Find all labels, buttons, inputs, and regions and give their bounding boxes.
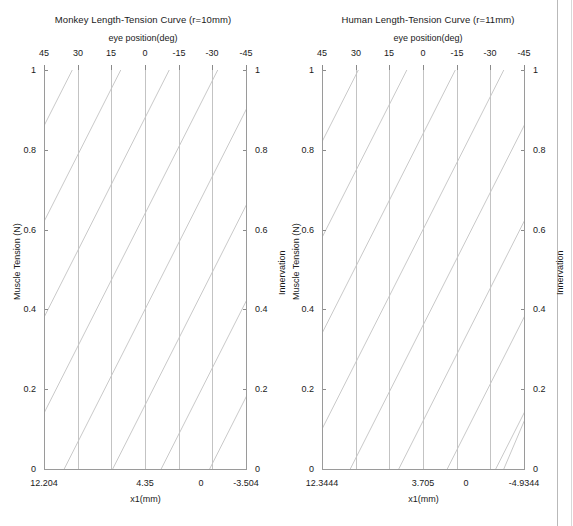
gridline-vertical (457, 70, 458, 470)
tick-label-eye-position: 45 (317, 48, 327, 58)
tick-label-innervation: 0.4 (533, 304, 546, 314)
tick-mark-x (212, 65, 213, 70)
y-axis-title-left-monkey: Muscle Tension (N) (12, 223, 22, 300)
tick-label-muscle-tension: 0.6 (23, 225, 36, 235)
tick-label-eye-position: 30 (351, 48, 361, 58)
gridline-vertical (111, 70, 112, 470)
length-tension-line-monkey (161, 70, 247, 469)
tick-label-muscle-tension: 0.8 (23, 145, 36, 155)
tick-label-muscle-tension: 0.2 (23, 384, 36, 394)
tick-label-eye-position: -30 (483, 48, 496, 58)
tick-label-innervation: 1 (533, 65, 538, 75)
tick-mark-x (423, 65, 424, 70)
tick-label-innervation: 0 (255, 464, 260, 474)
axis-line-bottom-human (322, 469, 525, 470)
tick-label-eye-position: 0 (142, 48, 147, 58)
tick-label-innervation: 0.6 (255, 225, 268, 235)
tick-label-eye-position: 0 (420, 48, 425, 58)
panel-title-human: Human Length-Tension Curve (r=11mm) (285, 14, 571, 25)
tick-label-eye-position: -15 (172, 48, 185, 58)
tick-label-innervation: 0.8 (533, 145, 546, 155)
axis-line-left-monkey (44, 70, 45, 470)
tick-mark-x (457, 65, 458, 70)
tick-mark-x (78, 65, 79, 70)
tick-label-x1-mm: -3.504 (233, 478, 259, 488)
tick-label-muscle-tension: 1 (309, 65, 314, 75)
tick-label-muscle-tension: 0.6 (301, 225, 314, 235)
tick-label-x1-mm: 4.35 (136, 478, 154, 488)
tick-label-eye-position: -45 (239, 48, 252, 58)
tick-label-eye-position: -15 (450, 48, 463, 58)
length-tension-line-monkey (64, 70, 247, 469)
tick-label-innervation: 0.4 (255, 304, 268, 314)
tick-mark-x (179, 65, 180, 70)
gridline-vertical (389, 70, 390, 470)
tick-label-eye-position: 30 (73, 48, 83, 58)
length-tension-line-monkey (210, 70, 247, 469)
axis-line-left-human (322, 70, 323, 470)
gridline-vertical (78, 70, 79, 470)
tick-label-muscle-tension: 0.4 (301, 304, 314, 314)
length-tension-line-human (399, 70, 525, 469)
length-tension-line-monkey (44, 70, 121, 469)
chart-panel-human: Human Length-Tension Curve (r=11mm) eye … (285, 0, 571, 526)
gridline-vertical (145, 70, 146, 470)
y-axis-title-left-human: Muscle Tension (N) (291, 223, 301, 300)
figure-sheet: Monkey Length-Tension Curve (r=10mm) eye… (0, 0, 573, 526)
gridline-vertical (490, 70, 491, 470)
tick-label-muscle-tension: 1 (31, 65, 36, 75)
length-tension-line-human (447, 70, 525, 469)
length-tension-line-human (322, 70, 504, 469)
tick-label-innervation: 1 (255, 65, 260, 75)
page-edge-line-outer (571, 0, 572, 526)
gridline-vertical (423, 70, 424, 470)
tick-label-innervation: 0.8 (255, 145, 268, 155)
axis-line-right-human (524, 70, 525, 470)
tick-label-x1-mm: 0 (198, 478, 203, 488)
plot-area-human: 4530150-15-30-45000.20.20.40.40.60.60.80… (322, 70, 525, 470)
gridline-vertical (356, 70, 357, 470)
tick-label-x1-mm: 12.204 (30, 478, 58, 488)
chart-panel-monkey: Monkey Length-Tension Curve (r=10mm) eye… (0, 0, 286, 526)
tick-label-x1-mm: 3.705 (412, 478, 435, 488)
tick-label-x1-mm: 12.3444 (306, 478, 339, 488)
tick-mark-x (111, 65, 112, 70)
tick-label-x1-mm: -4.9344 (509, 478, 540, 488)
tick-label-x1-mm: 0 (463, 478, 468, 488)
gridline-vertical (212, 70, 213, 470)
tick-label-muscle-tension: 0 (31, 464, 36, 474)
length-tension-line-human (322, 70, 407, 469)
tick-label-innervation: 0.2 (533, 384, 546, 394)
tick-label-innervation: 0.6 (533, 225, 546, 235)
plot-area-monkey: 4530150-15-30-45000.20.20.40.40.60.60.80… (44, 70, 247, 470)
tick-label-eye-position: -30 (205, 48, 218, 58)
axis-line-right-monkey (246, 70, 247, 470)
tick-mark-x (356, 65, 357, 70)
tick-label-eye-position: 15 (106, 48, 116, 58)
top-axis-label-human: eye position(deg) (285, 33, 571, 43)
tick-label-muscle-tension: 0.2 (301, 384, 314, 394)
x-axis-title-monkey: x1(mm) (44, 494, 247, 504)
tick-mark-x (145, 65, 146, 70)
x-axis-title-human: x1(mm) (322, 494, 525, 504)
tick-label-muscle-tension: 0.4 (23, 304, 36, 314)
tick-mark-x (490, 65, 491, 70)
panel-title-monkey: Monkey Length-Tension Curve (r=10mm) (0, 14, 286, 25)
axis-line-bottom-monkey (44, 469, 247, 470)
tick-label-eye-position: 45 (39, 48, 49, 58)
length-tension-line-monkey (44, 70, 169, 469)
tick-label-muscle-tension: 0 (309, 464, 314, 474)
tick-label-innervation: 0.2 (255, 384, 268, 394)
gridline-vertical (179, 70, 180, 470)
tick-label-eye-position: 15 (384, 48, 394, 58)
top-axis-label-monkey: eye position(deg) (0, 33, 286, 43)
tick-label-muscle-tension: 0.8 (301, 145, 314, 155)
tick-mark-x (389, 65, 390, 70)
tick-label-innervation: 0 (533, 464, 538, 474)
tick-label-eye-position: -45 (517, 48, 530, 58)
length-tension-line-human (322, 70, 358, 469)
y-axis-title-right-human: Innervation (555, 250, 565, 295)
